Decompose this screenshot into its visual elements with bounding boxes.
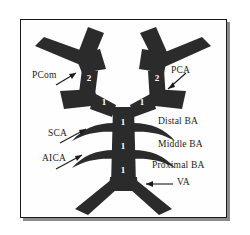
label-pca: PCA — [171, 66, 190, 76]
label-middle-ba: Middle BA — [158, 140, 203, 150]
label-aica: AICA — [42, 154, 66, 164]
figure-canvas: 2 2 1 1 1 1 1 1 — [0, 0, 250, 235]
label-pcom: PCom — [32, 71, 57, 81]
label-distal-ba: Distal BA — [158, 117, 198, 127]
label-proximal-ba: Proximal BA — [152, 161, 205, 171]
label-va: VA — [177, 178, 190, 188]
label-sca: SCA — [48, 129, 67, 139]
